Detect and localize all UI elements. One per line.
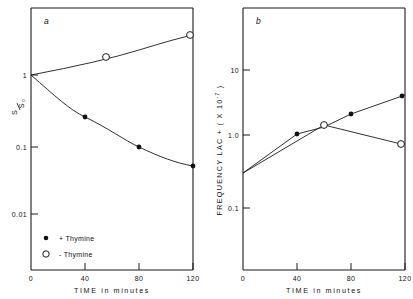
panel-a-xtick-1: 40 — [81, 275, 90, 282]
panel-a-plot: 1 0.1 0.01 0 40 80 120 TIME in minutes S… — [0, 0, 205, 299]
panel-a-ytick-1: 0.1 — [16, 144, 27, 151]
panel-b-x-axis-title: TIME in minutes — [286, 286, 362, 295]
panel-b-xtick-1: 40 — [293, 275, 302, 282]
panel-a-curve-minus-thymine — [31, 35, 193, 75]
panel-a-y-ticks — [31, 75, 38, 214]
panel-a-label: a — [44, 16, 49, 26]
panel-b-y-axis-main: FREQUENCY LAC + ( X 10 — [215, 98, 224, 215]
panel-b-y-axis-exponent: -7 — [215, 92, 220, 99]
panel-a-legend: + Thymine - Thymine — [43, 235, 95, 259]
panel-a-x-axis-title: TIME in minutes — [74, 286, 150, 295]
panel-b: 10 1.0 0.1 0 40 80 120 TIME in minutes F… — [208, 0, 413, 299]
panel-b-curve-plus-thymine — [243, 95, 405, 173]
legend-label-plus-thymine: + Thymine — [59, 235, 94, 243]
panel-b-ytick-0: 10 — [230, 67, 239, 74]
panel-a-ytick-0: 1 — [23, 72, 27, 79]
panel-b-ytick-2: 0.1 — [228, 205, 239, 212]
panel-a-xtick-0: 0 — [29, 275, 33, 282]
panel-b-plot: 10 1.0 0.1 0 40 80 120 TIME in minutes F… — [208, 0, 413, 299]
legend-marker-open-circle — [43, 251, 49, 257]
panel-a: 1 0.1 0.01 0 40 80 120 TIME in minutes S… — [0, 0, 205, 299]
panel-b-curve-minus-thymine — [243, 125, 401, 173]
panel-b-y-axis-title: FREQUENCY LAC + ( X 10-7 ) — [215, 85, 224, 216]
panel-b-xtick-2: 80 — [347, 275, 356, 282]
panel-b-xtick-3: 120 — [399, 275, 412, 282]
panel-b-y-ticks — [243, 70, 250, 208]
svg-text:FREQUENCY LAC + ( X 10-7 ): FREQUENCY LAC + ( X 10-7 ) — [215, 85, 224, 216]
panel-b-ytick-1: 1.0 — [228, 132, 239, 139]
panel-a-xtick-3: 120 — [187, 275, 200, 282]
legend-marker-filled-circle — [44, 236, 49, 241]
panel-a-x-ticks — [85, 263, 193, 270]
panel-a-curve-plus-thymine — [31, 75, 193, 166]
panel-b-xtick-0: 0 — [241, 275, 245, 282]
panel-b-y-axis-tail: ) — [215, 85, 224, 92]
panel-a-ytick-2: 0.01 — [12, 211, 27, 218]
panel-a-xtick-2: 80 — [135, 275, 144, 282]
legend-label-minus-thymine: - Thymine — [59, 251, 93, 259]
panel-a-y-axis-title: S S₀ — [10, 98, 26, 115]
panel-a-axes — [31, 8, 193, 270]
panel-b-label: b — [256, 16, 261, 26]
figure-container: 1 0.1 0.01 0 40 80 120 TIME in minutes S… — [0, 0, 413, 299]
panel-a-points-plus-thymine — [83, 115, 196, 169]
panel-a-y-axis-num: S — [10, 109, 19, 115]
panel-b-x-ticks — [297, 263, 405, 270]
